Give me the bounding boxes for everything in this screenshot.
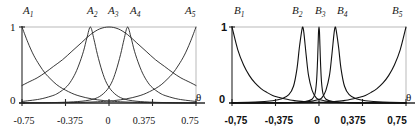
- panel-b: B1 B2 B3 B4 B5 1 0 -0,75 -0,375 0 0,375 …: [210, 0, 420, 138]
- y-tick-b-top: 1: [221, 22, 227, 33]
- curve-label-a5: A5: [185, 5, 195, 19]
- curve-label-b4: B4: [337, 5, 347, 19]
- x-axis-symbol-b: θ: [406, 92, 411, 103]
- curve-label-a3: A3: [108, 5, 118, 19]
- y-tick-a-top: 1: [10, 22, 16, 33]
- panel-a: A1 A2 A3 A4 A5 1 0 -0.75 -0.375 0 0.375 …: [0, 0, 210, 138]
- curve-label-b5: B5: [392, 5, 402, 19]
- x-tick-b-2: 0: [309, 116, 325, 126]
- x-tick-a-2: 0: [100, 116, 116, 126]
- x-tick-a-0: -0.75: [4, 116, 44, 126]
- curve-label-b1: B1: [234, 5, 244, 19]
- curve-label-b2: B2: [292, 5, 302, 19]
- x-tick-a-4: 0.75: [173, 116, 207, 126]
- x-tick-b-1: -0,375: [256, 116, 302, 126]
- y-tick-b-bottom: 0: [219, 94, 225, 105]
- x-tick-b-4: 0,75: [378, 116, 416, 126]
- y-tick-a-bottom: 0: [10, 95, 16, 106]
- curve-label-a2: A2: [87, 5, 97, 19]
- curve-label-a4: A4: [130, 5, 140, 19]
- x-axis-symbol-a: θ: [196, 92, 201, 103]
- x-tick-b-3: 0,375: [332, 116, 374, 126]
- x-tick-a-3: 0.375: [124, 116, 164, 126]
- x-tick-a-1: -0.375: [47, 116, 93, 126]
- figure-root: A1 A2 A3 A4 A5 1 0 -0.75 -0.375 0 0.375 …: [0, 0, 420, 138]
- curve-label-b3: B3: [315, 5, 325, 19]
- x-tick-b-0: -0,75: [216, 116, 256, 126]
- curve-label-a1: A1: [23, 5, 33, 19]
